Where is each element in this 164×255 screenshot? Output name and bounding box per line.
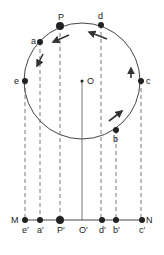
center-label: O	[87, 76, 94, 86]
center-point	[81, 80, 84, 83]
point-label: e	[14, 76, 19, 86]
projection-point	[139, 217, 145, 223]
projection-label: d′	[99, 225, 106, 235]
projection-point	[99, 217, 105, 223]
label-m: M	[11, 215, 19, 225]
arrow-icon	[53, 35, 69, 42]
projection-label: a′	[37, 225, 44, 235]
point-a	[37, 39, 43, 45]
projection-label: b′	[113, 225, 120, 235]
projection-point	[113, 217, 119, 223]
arrow-icon	[89, 32, 107, 39]
direction-arrows	[37, 32, 131, 121]
point-b	[113, 127, 119, 133]
projection-label: c′	[139, 225, 146, 235]
projection-point	[22, 217, 28, 223]
point-d	[98, 22, 104, 28]
label-n: N	[146, 215, 153, 225]
arrow-icon	[109, 111, 122, 121]
point-label: P	[58, 12, 64, 22]
point-e	[22, 78, 28, 84]
projection-point	[56, 216, 64, 224]
point-label: c	[146, 76, 151, 86]
point-c	[138, 78, 144, 84]
projection-point	[37, 217, 43, 223]
diagram-canvas: PdaecbOe′a′P′O′d′b′c′MN	[0, 0, 164, 255]
point-P	[56, 22, 64, 30]
projection-label: O′	[79, 225, 88, 235]
projection-label: P′	[57, 225, 65, 235]
point-label: b	[113, 134, 118, 144]
circular-motion-diagram: PdaecbOe′a′P′O′d′b′c′MN	[0, 0, 164, 255]
point-label: d	[98, 11, 103, 21]
point-label: a	[31, 36, 36, 46]
projection-label: e′	[22, 225, 29, 235]
